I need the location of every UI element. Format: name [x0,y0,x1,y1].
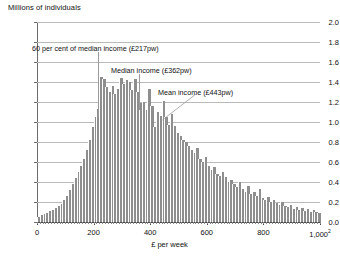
x-axis-minor-tick [60,222,61,224]
x-axis-minor-tick [292,222,293,224]
x-axis-minor-tick [133,222,134,224]
y-axis-tick [34,82,37,83]
x-axis-minor-tick [51,222,52,224]
y-axis-tick-label: 0.4 [305,178,339,187]
x-axis-minor-tick [184,222,185,224]
y-axis-tick [34,42,37,43]
x-axis-minor-tick [62,222,63,224]
x-axis-minor-tick [153,222,154,224]
x-axis-minor-tick [227,222,228,224]
x-axis-minor-tick [162,222,163,224]
x-axis-minor-tick [176,222,177,224]
x-axis-minor-tick [136,222,137,224]
x-axis-minor-tick [238,222,239,224]
y-axis-tick [34,122,37,123]
x-axis-title: £ per week [0,240,339,249]
x-axis-minor-tick [193,222,194,224]
x-axis-minor-tick [99,222,100,224]
x-axis-minor-tick [210,222,211,224]
x-axis-minor-tick [306,222,307,224]
x-axis-minor-tick [198,222,199,224]
x-axis-minor-tick [246,222,247,224]
x-axis-title-text: £ per week [151,240,188,249]
x-axis-minor-tick [207,222,208,224]
x-axis-tick-label: 400 [130,228,170,237]
x-axis-minor-tick [164,222,165,224]
x-axis-minor-tick [88,222,89,224]
x-axis-minor-tick [224,222,225,224]
x-axis-minor-tick [280,222,281,224]
x-axis-minor-tick [105,222,106,224]
x-axis-minor-tick [252,222,253,224]
x-axis-minor-tick [167,222,168,224]
x-axis-minor-tick [195,222,196,224]
x-axis-tick-label: 1,0002 [300,228,340,239]
x-axis-minor-tick [261,222,262,224]
x-axis-tick-label: 200 [74,228,114,237]
x-axis-minor-tick [82,222,83,224]
x-axis-minor-tick [303,222,304,224]
x-axis-minor-tick [218,222,219,224]
x-axis-minor-tick [111,222,112,224]
y-axis-tick-label: 1.8 [305,38,339,47]
x-axis-minor-tick [54,222,55,224]
x-axis-minor-tick [201,222,202,224]
x-axis-tick-label: 600 [187,228,227,237]
x-axis-minor-tick [43,222,44,224]
x-axis-minor-tick [94,222,95,224]
x-axis-minor-tick [65,222,66,224]
x-axis-minor-tick [145,222,146,224]
x-axis-minor-tick [150,222,151,224]
x-axis-minor-tick [229,222,230,224]
y-axis-tick-label: 1.2 [305,98,339,107]
annotation-60pc-median-label: 60 per cent of median income (£217pw) [32,44,159,53]
x-axis-minor-tick [221,222,222,224]
x-axis-minor-tick [295,222,296,224]
x-axis-minor-tick [309,222,310,224]
x-axis-minor-tick [249,222,250,224]
x-axis-minor-tick [170,222,171,224]
x-axis-footnote-marker: 2 [328,228,331,234]
y-axis-title: Millions of individuals [8,3,81,12]
x-axis-minor-tick [68,222,69,224]
x-axis-minor-tick [317,222,318,224]
x-axis-minor-tick [113,222,114,224]
x-axis-minor-tick [272,222,273,224]
annotation-median-leader [139,74,140,110]
x-axis-minor-tick [215,222,216,224]
x-axis-minor-tick [297,222,298,224]
x-axis-minor-tick [125,222,126,224]
y-axis-tick [34,102,37,103]
x-axis-minor-tick [96,222,97,224]
annotation-60pc-median-leader [98,52,99,117]
x-axis-minor-tick [48,222,49,224]
y-axis-tick-label: 2.0 [305,18,339,27]
y-axis-tick [34,62,37,63]
x-axis-minor-tick [130,222,131,224]
x-axis-minor-tick [283,222,284,224]
x-axis-tick-label: 800 [243,228,283,237]
x-axis-minor-tick [108,222,109,224]
annotation-mean: Mean income (£443pw) [158,88,233,97]
y-axis-tick-label: 0.0 [305,218,339,227]
y-axis-tick-label: 1.0 [305,118,339,127]
y-axis-tick [34,22,37,23]
y-axis-tick [34,162,37,163]
x-axis-minor-tick [57,222,58,224]
x-axis-minor-tick [79,222,80,224]
x-axis-minor-tick [278,222,279,224]
x-axis-minor-tick [77,222,78,224]
x-axis-minor-tick [159,222,160,224]
x-axis-minor-tick [45,222,46,224]
x-axis-minor-tick [212,222,213,224]
x-axis-minor-tick [187,222,188,224]
x-axis-minor-tick [266,222,267,224]
x-axis-minor-tick [142,222,143,224]
x-axis-minor-tick [179,222,180,224]
x-axis-minor-tick [232,222,233,224]
y-axis-tick [34,182,37,183]
x-axis-minor-tick [71,222,72,224]
x-axis-minor-tick [181,222,182,224]
x-axis-minor-tick [235,222,236,224]
